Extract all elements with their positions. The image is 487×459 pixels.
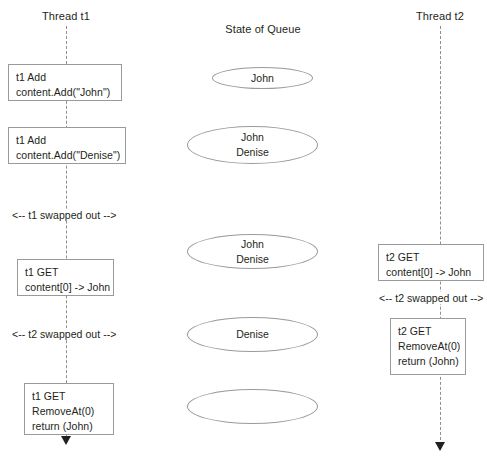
column-title-thread-t2: Thread t2 <box>394 10 486 22</box>
label-t1-swapped-out: <-- t1 swapped out --> <box>12 209 116 221</box>
arrowhead-thread-t1 <box>61 436 71 445</box>
queue-state-ellipse-4: Denise <box>187 317 318 352</box>
label-t2-swapped-out: <-- t2 swapped out --> <box>379 292 483 304</box>
event-box-t1-get-content[interactable]: t1 GET content[0] -> John <box>17 259 114 296</box>
event-box-t2-get-content[interactable]: t2 GET content[0] -> John <box>378 244 484 281</box>
queue-state-ellipse-1: John <box>212 67 313 89</box>
event-box-t1-get-removeat[interactable]: t1 GET RemoveAt(0) return (John) <box>24 383 114 435</box>
column-title-state-of-queue: State of Queue <box>215 23 311 35</box>
event-box-t2-get-removeat[interactable]: t2 GET RemoveAt(0) return (John) <box>390 318 466 375</box>
lifeline-thread-t2 <box>440 26 441 450</box>
event-box-t1-add-john[interactable]: t1 Add content.Add("John") <box>8 64 122 101</box>
label-t1-column-t2-swapped-out: <-- t2 swapped out --> <box>12 328 116 340</box>
event-box-t1-add-denise[interactable]: t1 Add content.Add("Denise") <box>8 127 126 164</box>
queue-state-ellipse-5 <box>187 389 318 424</box>
arrowhead-thread-t2 <box>435 442 445 451</box>
queue-state-ellipse-2: John Denise <box>187 126 318 164</box>
sequence-diagram-canvas: Thread t1 State of Queue Thread t2 t1 Ad… <box>0 0 487 459</box>
column-title-thread-t1: Thread t1 <box>20 10 112 22</box>
queue-state-ellipse-3: John Denise <box>187 234 318 269</box>
